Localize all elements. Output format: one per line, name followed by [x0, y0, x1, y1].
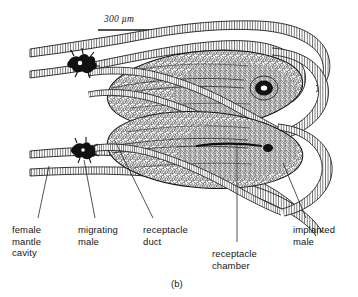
panel-letter: (b) — [171, 278, 183, 289]
anatomical-diagram — [0, 0, 358, 297]
label-receptacle-chamber: receptacle chamber — [212, 248, 257, 271]
label-receptacle-duct: receptacle duct — [143, 224, 188, 247]
label-implanted-male: implanted male — [293, 224, 335, 247]
scale-bar-label: 300 µm — [104, 14, 134, 24]
label-female-mantle-cavity: female mantle cavity — [12, 224, 41, 259]
label-migrating-male: migrating male — [78, 224, 118, 247]
migrating-male-lower — [71, 137, 99, 163]
figure-panel-b: 300 µm female mantle cavity migrating ma… — [0, 0, 358, 297]
